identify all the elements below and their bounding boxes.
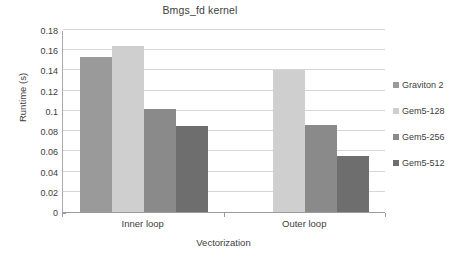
gridline xyxy=(63,29,385,30)
legend-label: Gem5-128 xyxy=(402,106,445,116)
y-tick-label: 0.16 xyxy=(10,46,58,56)
legend-swatch-icon xyxy=(393,108,399,114)
legend-swatch-icon xyxy=(393,134,399,140)
y-tick-label: 0.02 xyxy=(10,188,58,198)
legend-swatch-icon xyxy=(393,82,399,88)
legend-label: Gem5-256 xyxy=(402,132,445,142)
x-tick-label: Outer loop xyxy=(244,218,364,229)
y-tick-label: 0.18 xyxy=(10,26,58,36)
y-tick-label: 0.06 xyxy=(10,147,58,157)
legend-swatch-icon xyxy=(393,160,399,166)
legend-item[interactable]: Gem5-128 xyxy=(393,98,469,124)
x-tick-mark xyxy=(385,213,386,217)
bar-gem5-512-outer-loop xyxy=(337,156,369,212)
plot-area xyxy=(62,31,385,213)
legend-item[interactable]: Gem5-512 xyxy=(393,150,469,176)
x-tick-label: Inner loop xyxy=(83,218,203,229)
legend-label: Gem5-512 xyxy=(402,158,445,168)
bar-gem5-128-outer-loop xyxy=(273,70,305,212)
bar-graviton-2-inner-loop xyxy=(80,57,112,212)
y-tick-label: 0 xyxy=(10,208,58,218)
x-tick-mark xyxy=(62,213,63,217)
x-tick-mark xyxy=(224,213,225,217)
chart-container: Bmgs_fd kernel Runtime (s) 00.020.040.06… xyxy=(0,0,469,261)
y-tick-label: 0.04 xyxy=(10,168,58,178)
x-axis-title: Vectorization xyxy=(62,237,385,248)
bar-gem5-256-inner-loop xyxy=(144,109,176,212)
legend-item[interactable]: Gem5-256 xyxy=(393,124,469,150)
y-tick-label: 0.1 xyxy=(10,107,58,117)
legend-label: Graviton 2 xyxy=(402,80,444,90)
y-tick-label: 0.08 xyxy=(10,127,58,137)
y-tick-label: 0.14 xyxy=(10,66,58,76)
bar-gem5-128-inner-loop xyxy=(112,46,144,212)
chart-title: Bmgs_fd kernel xyxy=(0,4,400,16)
y-axis-ticks: 00.020.040.060.080.10.120.140.160.18 xyxy=(8,31,58,213)
chart-legend: Graviton 2Gem5-128Gem5-256Gem5-512 xyxy=(393,72,469,176)
bar-gem5-256-outer-loop xyxy=(305,125,337,212)
bar-gem5-512-inner-loop xyxy=(176,126,208,212)
y-tick-label: 0.12 xyxy=(10,87,58,97)
legend-item[interactable]: Graviton 2 xyxy=(393,72,469,98)
